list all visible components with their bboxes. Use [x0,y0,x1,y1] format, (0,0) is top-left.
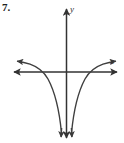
x-axis-label: x [109,56,114,66]
curve-left-branch-arrow [61,128,62,137]
y-axis-label: y [69,4,74,14]
coordinate-graph: y x [0,0,124,143]
curve-right-branch-arrow [71,128,72,137]
figure-container: 7. y x [0,0,124,143]
